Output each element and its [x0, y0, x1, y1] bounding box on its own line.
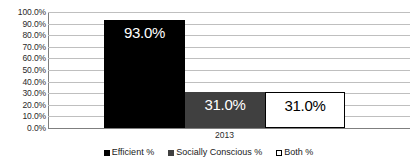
gridline [48, 35, 410, 36]
bar-socially-conscious[interactable]: 31.0% [185, 92, 265, 128]
y-tick-label: 40.0% [2, 77, 46, 86]
plot-area: 93.0% 31.0% 31.0% [48, 12, 410, 128]
y-tick-label: 0.0% [2, 124, 46, 133]
y-axis-tick-labels: 100.0% 90.0% 80.0% 70.0% 60.0% 50.0% 40.… [0, 12, 46, 128]
bar-chart: 100.0% 90.0% 80.0% 70.0% 60.0% 50.0% 40.… [0, 0, 417, 165]
legend-label: Efficient % [112, 148, 154, 157]
legend-label: Socially Conscious % [176, 148, 262, 157]
y-tick-label: 90.0% [2, 19, 46, 28]
y-tick-label: 60.0% [2, 54, 46, 63]
legend-swatch-efficient-icon [104, 150, 110, 156]
y-tick-label: 70.0% [2, 43, 46, 52]
gridline [48, 24, 410, 25]
y-tick-label: 80.0% [2, 31, 46, 40]
legend-item-both[interactable]: Both % [276, 148, 313, 157]
y-tick-label: 30.0% [2, 89, 46, 98]
gridline [48, 70, 410, 71]
bar-efficient[interactable]: 93.0% [104, 20, 185, 128]
gridline [48, 58, 410, 59]
gridline [48, 47, 410, 48]
x-axis-baseline [48, 128, 410, 129]
bar-data-label: 31.0% [284, 93, 325, 113]
gridline [48, 12, 410, 13]
bar-data-label: 93.0% [124, 20, 165, 40]
bar-both[interactable]: 31.0% [265, 92, 345, 128]
legend-item-socially-conscious[interactable]: Socially Conscious % [168, 148, 262, 157]
legend-swatch-socially-conscious-icon [168, 150, 174, 156]
legend-swatch-both-icon [276, 150, 282, 156]
legend-label: Both % [284, 148, 313, 157]
y-tick-label: 10.0% [2, 112, 46, 121]
y-tick-label: 50.0% [2, 66, 46, 75]
x-axis-category-label: 2013 [104, 131, 345, 140]
y-tick-label: 100.0% [2, 8, 46, 17]
legend-item-efficient[interactable]: Efficient % [104, 148, 154, 157]
gridline [48, 82, 410, 83]
bar-data-label: 31.0% [204, 92, 245, 112]
chart-legend: Efficient % Socially Conscious % Both % [0, 148, 417, 157]
y-tick-label: 20.0% [2, 101, 46, 110]
